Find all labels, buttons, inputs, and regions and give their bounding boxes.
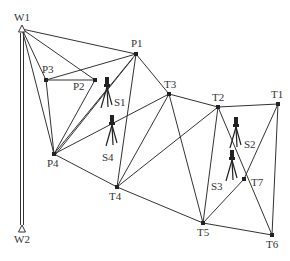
tripod-mount	[109, 122, 115, 125]
point-label: P2	[73, 80, 85, 92]
benchmark-triangle-icon	[19, 25, 26, 32]
point-label: T7	[251, 176, 264, 188]
edge-p3-p1	[46, 54, 136, 80]
station-label: S4	[102, 151, 114, 163]
point-label: P1	[131, 37, 143, 49]
control-point-marker	[276, 102, 280, 106]
edge-t7-t5	[203, 179, 244, 223]
point-label: T3	[164, 78, 177, 90]
benchmark-label: W1	[14, 11, 30, 23]
station-label: S3	[211, 180, 223, 192]
benchmark-label: W2	[14, 233, 30, 245]
control-point-marker	[242, 177, 246, 181]
edge-t2-t6	[218, 107, 272, 235]
edge-t3-t5	[169, 94, 203, 223]
point-label: T5	[197, 226, 210, 238]
control-point-marker	[216, 105, 220, 109]
theodolite-head	[110, 115, 114, 122]
station-label: S1	[114, 96, 126, 108]
edge-t4-t5	[117, 187, 203, 223]
control-point-marker	[44, 78, 48, 82]
control-point-marker	[201, 221, 205, 225]
control-point-marker	[270, 233, 274, 237]
edge-p3-p4	[46, 80, 54, 154]
theodolite-head	[230, 150, 234, 157]
point-label: T1	[271, 88, 283, 100]
station-label: S2	[244, 138, 256, 150]
tripod-mount	[104, 84, 110, 87]
edge-t2-t1	[218, 104, 278, 107]
point-label: P3	[42, 63, 54, 75]
control-point-marker	[167, 92, 171, 96]
control-point-marker	[115, 185, 119, 189]
edge-t3-t2	[169, 94, 218, 107]
benchmarks: W1W2	[14, 11, 30, 245]
tripod-leg	[106, 125, 112, 146]
tripod-icon	[106, 115, 117, 146]
tripod-icon	[101, 77, 112, 108]
tripod-icon	[226, 150, 237, 181]
point-label: T6	[266, 238, 279, 250]
control-point-marker	[134, 52, 138, 56]
survey-diagram: S1S4S2S3 P1P2P3P4T1T2T3T4T5T6T7 W1W2	[0, 0, 290, 261]
edge-t2-t4	[117, 107, 218, 187]
edge-t2-t5	[203, 107, 218, 223]
tripod-leg	[226, 160, 232, 181]
edge-t5-t6	[203, 223, 272, 235]
benchmark-triangle-icon	[19, 225, 26, 232]
tripod-mount	[233, 124, 239, 127]
network-edges	[21, 29, 279, 235]
point-label: T4	[109, 190, 122, 202]
theodolite-head	[234, 117, 238, 124]
edge-t1-t6	[272, 104, 278, 235]
triangulation-network: S1S4S2S3 P1P2P3P4T1T2T3T4T5T6T7 W1W2	[0, 0, 290, 261]
point-label: T2	[212, 91, 224, 103]
control-point-marker	[52, 152, 56, 156]
tripod-icon	[230, 117, 241, 148]
theodolite-head	[105, 77, 109, 84]
tripod-mount	[229, 157, 235, 160]
point-label: P4	[47, 157, 59, 169]
control-point-marker	[93, 78, 97, 82]
